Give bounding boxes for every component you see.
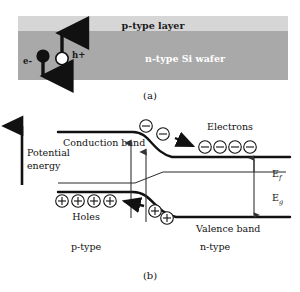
electron-carrier-sloping-2	[157, 128, 170, 141]
n-type-region-label: n-type	[200, 241, 231, 252]
electron-carrier-4	[244, 141, 257, 154]
hole-carrier-1	[56, 195, 69, 208]
fermi-level-subscript: f	[278, 174, 283, 182]
electrons-label: Electrons	[207, 121, 253, 132]
electron-carrier-2	[214, 141, 227, 154]
p-type-layer-label: p-type layer	[122, 20, 186, 31]
fermi-level-line	[58, 172, 286, 183]
n-type-wafer-label: n-type Si wafer	[145, 53, 226, 64]
hole-label: h+	[72, 50, 85, 60]
caption-b: (b)	[143, 270, 157, 281]
hole-carrier-3	[88, 195, 101, 208]
electron-carrier-1	[199, 141, 212, 154]
hole-circle	[56, 52, 68, 64]
electron-label: e-	[23, 56, 32, 66]
potential-energy-label-line2: energy	[27, 160, 61, 171]
holes-label: Holes	[72, 211, 100, 222]
electron-carrier-3	[229, 141, 242, 154]
hole-carrier-4	[104, 195, 117, 208]
valence-band-label: Valence band	[195, 223, 260, 234]
hole-carrier-sloping-2	[161, 212, 174, 225]
p-type-region-label: p-type	[71, 241, 102, 252]
fermi-level-label: E	[272, 168, 279, 179]
band-gap-label: E	[272, 192, 279, 203]
hole-drift-arrow	[124, 201, 144, 206]
electron-drift-arrow	[175, 138, 193, 146]
conduction-band-label: Conduction band	[63, 137, 145, 148]
electron-carrier-sloping-1	[140, 120, 153, 133]
hole-carrier-2	[72, 195, 85, 208]
figure-root: p-type layer n-type Si wafer h+ e- (a) P…	[0, 0, 300, 292]
band-gap-subscript: g	[279, 198, 283, 206]
caption-a: (a)	[143, 90, 157, 101]
panel-a: p-type layer n-type Si wafer h+ e- (a)	[18, 16, 288, 101]
hole-carrier-sloping-1	[149, 205, 162, 218]
panel-b: Potential energy Conduction band Valence…	[22, 120, 290, 281]
potential-energy-label-line1: Potential	[27, 147, 70, 158]
